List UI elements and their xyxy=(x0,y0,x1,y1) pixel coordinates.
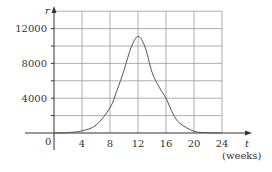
x-axis-unit-label: (weeks) xyxy=(222,150,261,161)
x-tick-label: 20 xyxy=(188,138,201,149)
x-axis-arrow-icon xyxy=(245,131,252,136)
x-tick-label: 16 xyxy=(160,138,173,149)
y-tick-label: 8000 xyxy=(22,58,47,69)
grid-lines xyxy=(54,11,222,133)
tick-labels: 48121620244000800012000 xyxy=(15,23,228,149)
axes xyxy=(25,6,252,150)
x-tick-label: 8 xyxy=(107,138,113,149)
x-tick-label: 4 xyxy=(79,138,85,149)
x-axis-label: t xyxy=(245,138,250,149)
y-tick-label: 4000 xyxy=(22,93,47,104)
chart: 48121620244000800012000 r t (weeks) 0 xyxy=(0,0,272,172)
origin-label: 0 xyxy=(45,136,51,147)
y-axis-label: r xyxy=(45,5,51,16)
x-tick-label: 24 xyxy=(216,138,229,149)
y-axis-arrow-icon xyxy=(52,6,57,13)
y-tick-label: 12000 xyxy=(15,23,47,34)
x-tick-label: 12 xyxy=(132,138,145,149)
